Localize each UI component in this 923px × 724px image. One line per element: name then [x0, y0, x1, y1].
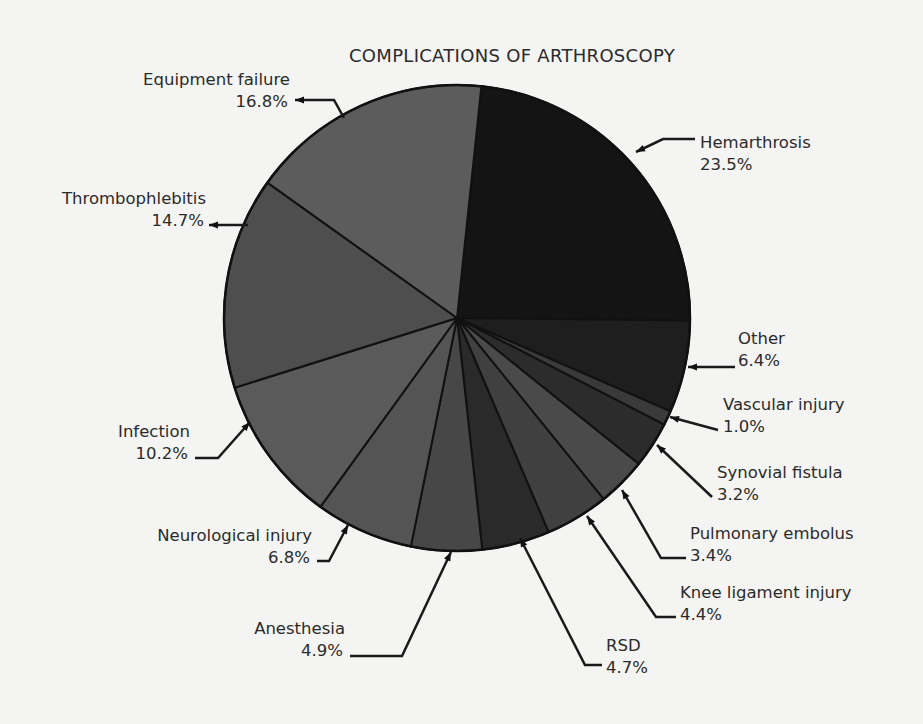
slice-percent-equipment-failure: 16.8% [236, 92, 288, 111]
leader-line-anesthesia [350, 552, 451, 656]
arrow-icon [622, 490, 630, 500]
slice-label-anesthesia: Anesthesia [254, 619, 345, 638]
leader-line-infection [195, 422, 250, 458]
slice-percent-synovial-fistula: 3.2% [717, 485, 759, 504]
slice-percent-pulmonary-embolus: 3.4% [690, 546, 732, 565]
leader-line-knee-ligament-injury [587, 516, 676, 617]
slice-label-synovial-fistula: Synovial fistula [717, 463, 843, 482]
slice-label-neurological-injury: Neurological injury [157, 526, 312, 545]
slice-percent-infection: 10.2% [136, 444, 188, 463]
arrow-icon [636, 145, 646, 152]
leader-line-pulmonary-embolus [622, 490, 686, 558]
slice-label-thrombophlebitis: Thrombophlebitis [61, 189, 206, 208]
chart-title: COMPLICATIONS OF ARTHROSCOPY [349, 45, 676, 66]
pie-chart: COMPLICATIONS OF ARTHROSCOPY Hemarthrosi… [0, 0, 923, 724]
slice-percent-rsd: 4.7% [606, 658, 648, 677]
slice-percent-vascular-injury: 1.0% [723, 417, 765, 436]
slice-percent-thrombophlebitis: 14.7% [152, 211, 204, 230]
slice-percent-knee-ligament-injury: 4.4% [680, 605, 722, 624]
arrow-icon [670, 416, 680, 423]
slice-percent-neurological-injury: 6.8% [268, 548, 310, 567]
slice-label-pulmonary-embolus: Pulmonary embolus [690, 524, 854, 543]
arrow-icon [295, 97, 304, 104]
arrow-icon [341, 525, 348, 535]
slice-label-knee-ligament-injury: Knee ligament injury [680, 583, 852, 602]
slice-percent-hemarthrosis: 23.5% [700, 155, 752, 174]
slice-label-hemarthrosis: Hemarthrosis [700, 133, 811, 152]
slice-label-rsd: RSD [606, 636, 641, 655]
leader-line-rsd [520, 538, 602, 665]
slice-label-vascular-injury: Vascular injury [723, 395, 845, 414]
slice-label-equipment-failure: Equipment failure [143, 70, 290, 89]
slice-percent-anesthesia: 4.9% [301, 641, 343, 660]
leader-line-synovial-fistula [657, 445, 712, 497]
slice-label-other: Other [738, 329, 785, 348]
slice-percent-other: 6.4% [738, 351, 780, 370]
arrow-icon [688, 364, 697, 371]
arrow-icon [444, 552, 451, 562]
slice-label-infection: Infection [118, 422, 190, 441]
pie-slice-hemarthrosis [457, 86, 690, 320]
pie-slices [224, 85, 690, 551]
arrow-icon [209, 222, 218, 229]
